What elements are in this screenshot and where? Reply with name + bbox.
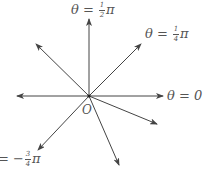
equals-sign: = <box>179 88 190 103</box>
minus-sign: − <box>13 151 24 166</box>
theta-symbol: θ <box>145 26 153 41</box>
pi-symbol: π <box>180 26 189 41</box>
origin-point <box>87 94 90 97</box>
equals-sign: = <box>83 2 94 17</box>
label-neg-three-quarter-pi: = −34π <box>0 151 41 168</box>
equals-sign: = <box>0 151 9 166</box>
theta-symbol: θ <box>167 88 175 103</box>
theta-symbol: θ <box>71 2 79 17</box>
ray-3pi-over-4 <box>36 44 89 96</box>
pi-symbol: π <box>106 2 115 17</box>
fraction: 14 <box>173 26 179 43</box>
label-theta-half-pi: θ = 12π <box>71 2 115 19</box>
pi-symbol: π <box>32 151 41 166</box>
equals-sign: = <box>157 26 168 41</box>
fraction: 34 <box>25 151 31 168</box>
fraction: 12 <box>99 2 105 19</box>
origin-label: O <box>82 104 92 116</box>
ray-pi-over-4 <box>89 44 141 96</box>
label-theta-zero: θ = 0 <box>167 89 202 102</box>
zero-value: 0 <box>194 88 202 103</box>
label-theta-quarter-pi: θ = 14π <box>145 26 189 43</box>
